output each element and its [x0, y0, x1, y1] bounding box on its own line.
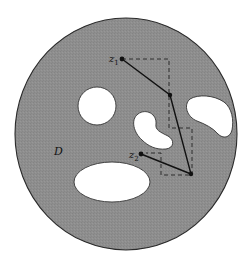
point-z2 — [139, 152, 144, 157]
vertex-bottom-right — [189, 172, 193, 176]
domain-diagram: z1 z2 D — [0, 0, 252, 265]
label-region-d: D — [53, 145, 63, 158]
hole-circle — [78, 87, 116, 125]
vertex-middle — [168, 93, 172, 97]
hole-ellipse — [74, 162, 150, 202]
region-disk — [15, 18, 237, 250]
point-z1 — [120, 57, 125, 62]
